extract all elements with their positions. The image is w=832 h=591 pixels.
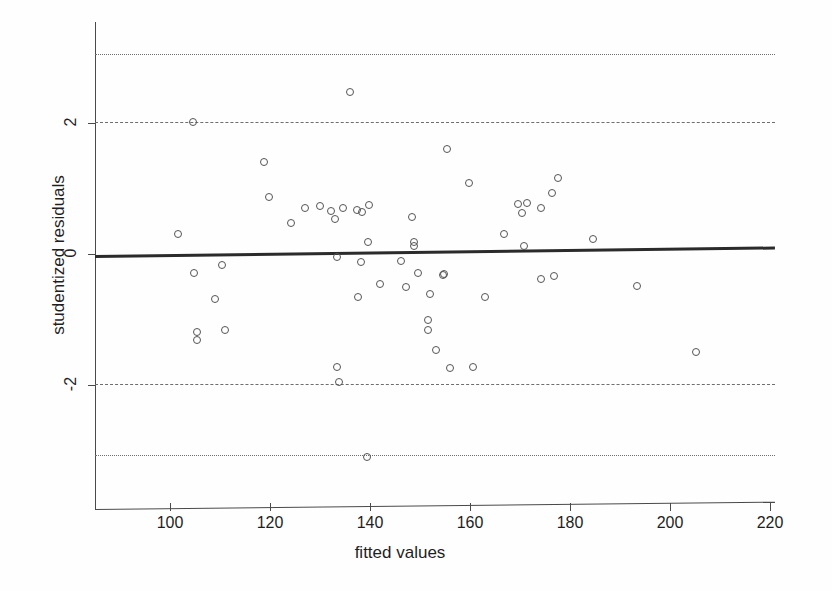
data-point <box>265 193 273 201</box>
data-point <box>211 295 219 303</box>
y-tick <box>88 254 96 255</box>
data-point <box>548 189 556 197</box>
data-point <box>589 235 597 243</box>
x-tick-label: 220 <box>747 514 793 532</box>
data-point <box>376 280 384 288</box>
data-point <box>446 364 454 372</box>
data-point <box>193 336 201 344</box>
data-point <box>414 269 422 277</box>
data-point <box>426 290 434 298</box>
y-tick <box>88 123 96 124</box>
data-point <box>221 326 229 334</box>
data-point <box>331 215 339 223</box>
data-point <box>218 261 226 269</box>
x-tick <box>570 503 571 511</box>
data-point <box>363 453 371 461</box>
y-axis-line <box>95 22 96 510</box>
x-tick-label: 200 <box>647 514 693 532</box>
y-tick <box>88 385 96 386</box>
data-point <box>554 174 562 182</box>
data-point <box>260 158 268 166</box>
data-point <box>333 253 341 261</box>
data-point <box>327 207 335 215</box>
lower-warning-bound <box>95 384 775 385</box>
data-point <box>514 200 522 208</box>
x-tick <box>170 503 171 511</box>
x-tick <box>470 503 471 511</box>
x-tick-label: 140 <box>347 514 393 532</box>
data-point <box>346 88 354 96</box>
x-tick <box>670 503 671 511</box>
data-point <box>354 293 362 301</box>
x-tick-label: 180 <box>547 514 593 532</box>
data-point <box>537 275 545 283</box>
x-axis-title: fitted values <box>290 543 510 563</box>
data-point <box>424 326 432 334</box>
data-point <box>408 213 416 221</box>
data-point <box>402 283 410 291</box>
x-tick <box>270 503 271 511</box>
upper-warning-bound <box>95 122 775 123</box>
y-tick-label: 2 <box>62 109 80 135</box>
data-point <box>365 201 373 209</box>
residual-plot: 10012014016018020022020-2 studentized re… <box>0 0 832 591</box>
x-tick-label: 100 <box>147 514 193 532</box>
x-axis-line <box>95 502 775 511</box>
data-point <box>301 204 309 212</box>
data-point <box>410 242 418 250</box>
data-point <box>316 202 324 210</box>
x-tick <box>770 503 771 511</box>
data-point <box>633 282 641 290</box>
lower-outlier-bound <box>95 455 775 456</box>
data-point <box>193 328 201 336</box>
y-axis-title: studentized residuals <box>49 135 69 375</box>
data-point <box>189 118 197 126</box>
data-point <box>287 219 295 227</box>
x-tick <box>370 503 371 511</box>
data-point <box>339 204 347 212</box>
data-point <box>500 230 508 238</box>
data-point <box>481 293 489 301</box>
data-point <box>443 145 451 153</box>
data-point <box>424 316 432 324</box>
data-point <box>432 346 440 354</box>
upper-outlier-bound <box>95 54 775 55</box>
data-point <box>518 209 526 217</box>
data-point <box>364 238 372 246</box>
data-point <box>333 363 341 371</box>
data-point <box>523 199 531 207</box>
data-point <box>190 269 198 277</box>
data-point <box>692 348 700 356</box>
data-point <box>397 257 405 265</box>
data-point <box>358 208 366 216</box>
data-point <box>469 363 477 371</box>
data-point <box>537 204 545 212</box>
x-tick-label: 160 <box>447 514 493 532</box>
data-point <box>335 378 343 386</box>
data-point <box>174 230 182 238</box>
data-point <box>439 271 447 279</box>
data-point <box>357 258 365 266</box>
data-point <box>550 272 558 280</box>
fit-line <box>95 247 775 258</box>
data-point <box>465 179 473 187</box>
x-tick-label: 120 <box>247 514 293 532</box>
